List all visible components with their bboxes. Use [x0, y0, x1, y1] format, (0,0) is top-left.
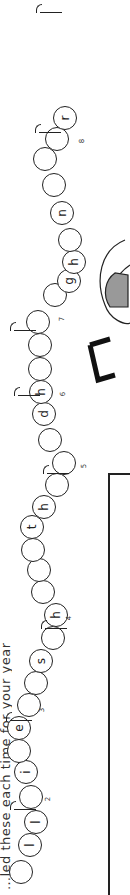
flag-icon [14, 330, 36, 331]
bead-letter [8, 740, 30, 762]
bead-letter: t [21, 516, 43, 538]
blank-bead[interactable] [28, 357, 52, 381]
blank-bead[interactable] [45, 127, 69, 151]
bead-letter [25, 672, 47, 694]
blank-bead[interactable] [21, 538, 45, 562]
bead-letter: h [33, 496, 55, 518]
bead-letter [32, 581, 54, 603]
blank-bead[interactable] [9, 860, 33, 884]
bead-letter [22, 539, 44, 561]
letter-bead: l [24, 810, 48, 834]
bead-letter: s [30, 650, 52, 672]
segment-number: 8 [78, 139, 86, 143]
letter-bead: d [32, 402, 56, 426]
flag-icon [10, 720, 32, 721]
bead-letter [20, 786, 42, 808]
letter-bead: i [14, 760, 38, 784]
bead-letter: h [30, 381, 52, 403]
bead-letter [34, 148, 56, 170]
segment-number: 6 [59, 392, 67, 396]
segment-number: 3 [38, 708, 46, 712]
bead-letter: d [33, 403, 55, 425]
bead-letter [28, 559, 50, 581]
flag-icon [45, 628, 67, 629]
segment-number: 7 [58, 317, 66, 321]
blank-bead[interactable] [42, 173, 66, 197]
letter-bead: h [32, 495, 56, 519]
bead-letter [42, 627, 64, 649]
flag-icon [18, 395, 40, 396]
flag-icon [47, 473, 69, 474]
segment-number: 5 [80, 464, 88, 468]
blank-bead[interactable] [19, 785, 43, 809]
blank-bead[interactable] [38, 428, 62, 452]
blank-bead[interactable] [52, 451, 76, 475]
flag-icon [14, 809, 36, 810]
bead-letter [43, 174, 65, 196]
blank-bead[interactable] [28, 333, 52, 357]
flag-icon [40, 12, 62, 13]
flag-icon [39, 132, 61, 133]
paintbrush-illustration-icon [70, 235, 130, 395]
bead-letter [53, 452, 75, 474]
letter-bead: r [53, 106, 77, 130]
bead-letter [39, 429, 61, 451]
letter-bead: h [29, 380, 53, 404]
blank-bead[interactable] [31, 580, 55, 604]
bead-letter: n [51, 202, 73, 224]
bead-letter: l [25, 811, 47, 833]
bead-letter: r [54, 107, 76, 129]
bead-letter: i [15, 761, 37, 783]
segment-number: 2 [44, 797, 52, 801]
blank-bead[interactable] [17, 693, 41, 717]
answer-box [108, 473, 130, 895]
bead-letter: l [19, 834, 41, 856]
bead-letter [46, 474, 68, 496]
blank-bead[interactable] [24, 671, 48, 695]
bead-letter [18, 694, 40, 716]
bead-letter: h [45, 604, 67, 626]
segment-number: 4 [65, 616, 73, 620]
letter-bead: s [29, 649, 53, 673]
letter-bead: n [50, 201, 74, 225]
bead-letter [10, 861, 32, 883]
bead-letter [29, 358, 51, 380]
blank-bead[interactable] [7, 739, 31, 763]
blank-bead[interactable] [45, 473, 69, 497]
blank-bead[interactable] [41, 626, 65, 650]
bead-letter [29, 334, 51, 356]
letter-bead: l [18, 833, 42, 857]
